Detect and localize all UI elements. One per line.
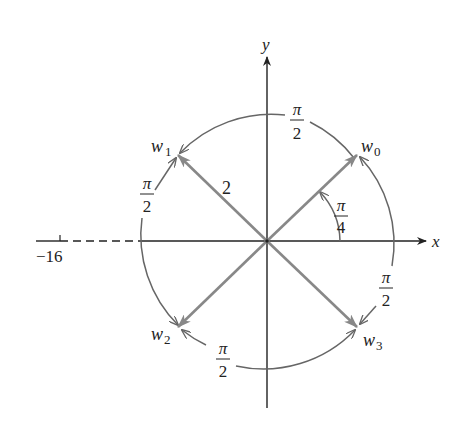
angle-label-left-arc: π 2	[140, 174, 154, 216]
svg-text:4: 4	[337, 218, 346, 237]
vector-w1	[178, 155, 267, 241]
origin-point	[265, 239, 269, 243]
angle-label-right-arc: π 2	[379, 268, 393, 310]
svg-text:w1: w1	[151, 136, 172, 159]
tick-label-minus-16: −16	[36, 247, 63, 266]
arc-bottom-left-segment	[182, 330, 206, 345]
svg-text:π: π	[382, 268, 391, 287]
root-label-w0: w0	[361, 136, 381, 159]
vector-w2	[178, 241, 267, 327]
axes	[36, 57, 426, 408]
svg-text:2: 2	[293, 124, 302, 143]
root-label-w1: w1	[151, 136, 172, 159]
angle-label-initial: π 4	[334, 196, 348, 237]
arc-left-lower-segment	[141, 218, 178, 325]
svg-text:w0: w0	[361, 136, 381, 159]
svg-text:π: π	[293, 100, 302, 119]
radius-label: 2	[222, 178, 231, 198]
arc-bottom-right-segment	[236, 330, 355, 369]
svg-text:π: π	[143, 174, 152, 193]
angle-label-top-arc: π 2	[290, 100, 304, 143]
root-label-w2: w2	[151, 324, 171, 347]
svg-text:π: π	[219, 339, 228, 358]
svg-text:π: π	[337, 196, 346, 215]
arc-right-lower-segment	[360, 306, 376, 324]
svg-text:2: 2	[382, 291, 391, 310]
vector-w3	[267, 241, 357, 327]
arc-top-right-segment	[310, 122, 354, 158]
svg-text:2: 2	[143, 197, 152, 216]
svg-text:w3: w3	[363, 330, 383, 353]
svg-text:2: 2	[219, 362, 228, 381]
x-axis-label: x	[431, 232, 440, 251]
arc-left-upper-segment	[155, 158, 176, 190]
angle-label-bottom-arc: π 2	[216, 339, 230, 381]
root-label-w3: w3	[363, 330, 383, 353]
complex-roots-diagram: x y −16 w0 w1 w2 w3 2 π	[0, 0, 468, 423]
arc-right-upper-segment	[360, 157, 394, 266]
svg-text:w2: w2	[151, 324, 171, 347]
y-axis-label: y	[260, 35, 270, 54]
arc-top-left-segment	[180, 114, 285, 153]
